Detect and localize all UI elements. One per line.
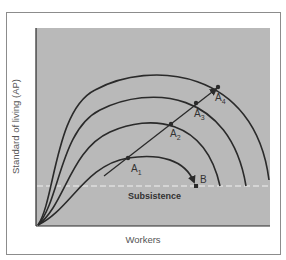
point-a1 [126,156,130,160]
label-b: B [200,174,207,185]
point-a3 [194,101,198,105]
x-axis-label: Workers [0,234,286,245]
diagram-canvas: A1 A2 A3 A4 B Subsistence [0,0,286,260]
y-axis-label: Standard of living (AP) [10,72,21,182]
subsistence-label: Subsistence [128,191,181,201]
point-a4 [216,85,220,89]
point-a2 [169,122,173,126]
point-b [194,184,198,188]
